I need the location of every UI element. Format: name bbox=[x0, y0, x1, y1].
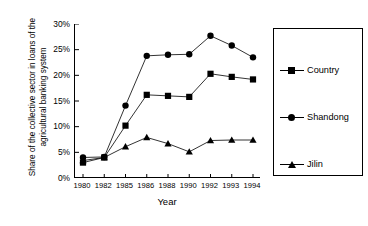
y-tick-label: 20% bbox=[40, 71, 70, 80]
legend-item-shandong[interactable]: Shandong bbox=[280, 110, 349, 124]
legend-label: Shandong bbox=[307, 112, 349, 122]
series-line bbox=[83, 74, 253, 163]
data-point bbox=[250, 54, 256, 60]
triangle-marker-icon bbox=[280, 158, 304, 170]
series-canvas bbox=[75, 24, 261, 178]
x-axis-tick-labels: 198019821985198619881990199219931994 bbox=[74, 181, 260, 195]
data-point bbox=[122, 102, 128, 108]
data-point bbox=[250, 76, 256, 82]
legend-item-jilin[interactable]: Jilin bbox=[280, 157, 323, 171]
circle-marker-icon bbox=[280, 111, 304, 123]
y-tick-label: 15% bbox=[40, 97, 70, 106]
data-point bbox=[144, 53, 150, 59]
data-point bbox=[229, 42, 235, 48]
data-point bbox=[122, 143, 129, 149]
y-axis-tick-labels: 0%5%10%15%20%25%30% bbox=[38, 0, 70, 226]
data-point bbox=[186, 94, 192, 100]
data-point bbox=[165, 52, 171, 58]
x-tick-label: 1994 bbox=[239, 181, 265, 190]
legend-item-country[interactable]: Country bbox=[280, 63, 339, 77]
data-point bbox=[229, 74, 235, 80]
x-axis-title: Year bbox=[74, 196, 260, 207]
y-tick-label: 0% bbox=[40, 174, 70, 183]
legend-label: Jilin bbox=[307, 159, 323, 169]
y-tick-label: 5% bbox=[40, 148, 70, 157]
data-point bbox=[144, 92, 150, 98]
data-point bbox=[186, 148, 193, 154]
data-point bbox=[122, 123, 128, 129]
data-point bbox=[143, 134, 150, 140]
plot-area bbox=[74, 24, 260, 178]
chart-figure: Share of the collective sector in loans … bbox=[0, 0, 368, 226]
data-point bbox=[207, 33, 213, 39]
data-point bbox=[186, 51, 192, 57]
y-tick-label: 10% bbox=[40, 122, 70, 131]
chart-legend: Country Shandong Jilin bbox=[273, 28, 363, 176]
y-axis-title-container: Share of the collective sector in loans … bbox=[0, 0, 40, 195]
square-marker-icon bbox=[280, 64, 304, 76]
data-point bbox=[207, 71, 213, 77]
y-tick-label: 30% bbox=[40, 20, 70, 29]
legend-label: Country bbox=[307, 65, 339, 75]
data-point bbox=[165, 93, 171, 99]
y-tick-label: 25% bbox=[40, 45, 70, 54]
